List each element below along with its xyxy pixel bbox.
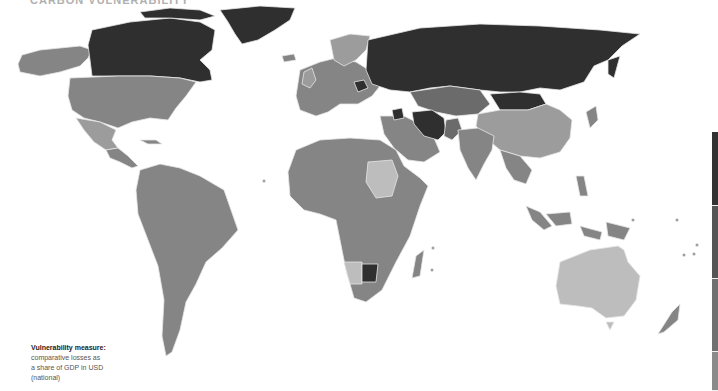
caption-line-2: a share of GDP in USD — [31, 364, 103, 371]
region-greenland[interactable] — [220, 6, 295, 44]
legend-segment-3 — [712, 279, 718, 352]
legend-color-scale — [712, 132, 718, 391]
region-south-america[interactable] — [136, 164, 238, 356]
region-australia[interactable] — [556, 246, 640, 318]
legend-segment-2 — [712, 206, 718, 279]
island-dot — [431, 269, 434, 272]
island-dot — [263, 180, 266, 183]
region-central-america[interactable] — [106, 148, 138, 168]
region-iceland[interactable] — [282, 54, 296, 62]
legend-segment-1 — [712, 132, 718, 206]
region-botswana[interactable] — [362, 264, 378, 282]
region-indonesia[interactable] — [526, 206, 630, 240]
island-dot — [432, 247, 435, 250]
region-russia[interactable] — [366, 24, 640, 92]
caption-line-3: (national) — [31, 374, 60, 381]
region-syria[interactable] — [392, 108, 404, 120]
region-kamchatka[interactable] — [608, 56, 620, 78]
region-tasmania[interactable] — [606, 322, 614, 330]
region-india[interactable] — [458, 128, 494, 180]
world-map — [0, 0, 718, 391]
region-madagascar[interactable] — [412, 250, 424, 278]
region-philippines[interactable] — [576, 176, 588, 196]
region-arctic-islands[interactable] — [140, 8, 215, 20]
region-cuba[interactable] — [140, 140, 162, 144]
region-namibia[interactable] — [344, 262, 362, 284]
island-dot — [693, 253, 696, 256]
region-japan[interactable] — [586, 106, 598, 128]
region-scandinavia[interactable] — [330, 34, 370, 66]
region-canada[interactable] — [88, 18, 215, 82]
caption-line-1: comparative losses as — [31, 354, 100, 361]
island-dot — [676, 219, 679, 222]
region-alaska[interactable] — [18, 46, 92, 76]
vulnerability-caption: Vulnerability measure: comparative losse… — [31, 343, 121, 383]
region-new-zealand[interactable] — [658, 304, 680, 334]
legend-segment-4 — [712, 352, 718, 391]
caption-heading: Vulnerability measure: — [31, 343, 121, 353]
island-dot — [696, 244, 699, 247]
island-dot — [683, 254, 686, 257]
island-dot — [632, 219, 635, 222]
